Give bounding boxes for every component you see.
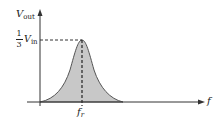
peak-level-sub: in — [31, 38, 38, 46]
y-axis-label-sub: out — [23, 13, 35, 21]
y-axis-arrow-icon — [38, 9, 43, 16]
peak-level-v: V — [24, 33, 31, 44]
fr-sub: r — [81, 111, 84, 119]
x-axis-arrow-icon — [198, 100, 205, 105]
fraction-numerator: 1 — [15, 30, 23, 38]
y-axis-label: Vout — [16, 9, 35, 21]
peak-level-label: Vin — [24, 34, 38, 46]
resonant-frequency-label: fr — [77, 107, 84, 119]
fraction-denominator: 3 — [15, 41, 23, 49]
x-axis-label: f — [207, 96, 211, 106]
